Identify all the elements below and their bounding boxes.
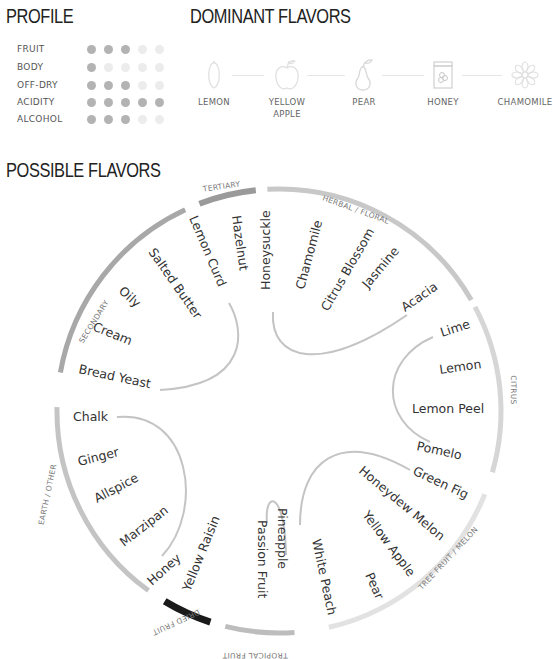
flavor-label: Acacia [398, 279, 440, 315]
category-label: DRIED FRUIT [151, 607, 201, 637]
flavor-label: Lemon Curd [186, 213, 229, 289]
category-label: CITRUS [509, 375, 518, 404]
flavor-connector-curve [393, 337, 433, 442]
flavor-label: Lemon [438, 356, 482, 377]
flavor-connector-curve [273, 312, 407, 354]
flavor-label: Lime [438, 316, 472, 340]
flavor-label: Bread Yeast [77, 361, 152, 391]
category-label: TREE FRUIT / MELON [416, 525, 480, 592]
flavor-label: Pear [362, 570, 387, 602]
flavor-label: Chamomile [292, 218, 325, 291]
flavor-wheel: SECONDARYBread YeastCreamOilySalted Butt… [0, 0, 553, 659]
flavor-label: Hazelnut [229, 214, 252, 271]
category-label: TROPICAL FRUIT [222, 651, 288, 659]
flavor-label: Ginger [76, 444, 121, 469]
flavor-label: Salted Butter [146, 245, 206, 322]
flavor-label: Chalk [73, 409, 109, 424]
flavor-label: Pomelo [415, 438, 463, 462]
flavor-label: Passion Fruit [255, 520, 270, 598]
flavor-label: Honeysuckle [258, 210, 273, 290]
flavor-label: Lemon Peel [412, 401, 484, 416]
category-arc-tropical-fruit [225, 626, 294, 633]
flavor-label: Allspice [91, 470, 141, 506]
category-arc-citrus [475, 307, 501, 472]
flavor-label: White Peach [309, 538, 340, 617]
flavor-label: Yellow Raisin [178, 513, 222, 594]
category-label: HERBAL / FLORAL [321, 193, 391, 226]
flavor-label: Marzipan [117, 502, 171, 549]
flavor-label: Pineapple [275, 508, 290, 569]
flavor-label: Cream [91, 319, 135, 348]
flavor-label: Oily [116, 283, 144, 311]
category-label: EARTH / OTHER [37, 463, 59, 526]
flavor-label: Honey [144, 550, 184, 588]
flavor-label: Green Fig [411, 463, 471, 502]
